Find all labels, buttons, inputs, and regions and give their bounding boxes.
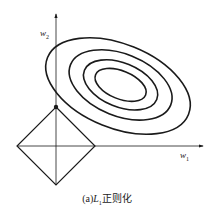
contour-outer: [32, 19, 204, 154]
contour-3: [76, 50, 165, 120]
figure-caption: (a)L1正则化: [0, 190, 214, 206]
x-axis-label: w1: [180, 150, 189, 162]
y-axis-label: w2: [40, 28, 49, 40]
contour-2: [59, 36, 182, 134]
l1-regularization-diagram: [0, 0, 214, 215]
tangent-point: [54, 105, 58, 109]
contour-inner: [90, 62, 151, 108]
